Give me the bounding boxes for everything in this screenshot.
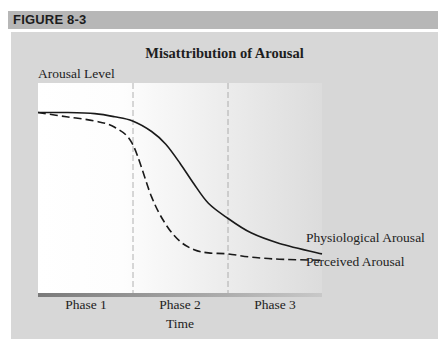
phase-1-label: Phase 1 [46, 297, 126, 313]
legend-perceived-arousal: Perceived Arousal [306, 254, 405, 270]
phase-2-label: Phase 2 [140, 297, 220, 313]
figure-label: FIGURE 8-3 [13, 12, 87, 27]
figure-header-band: FIGURE 8-3 [8, 11, 438, 29]
phase-3-label: Phase 3 [235, 297, 315, 313]
x-axis-label: Time [140, 316, 220, 332]
plot-area [11, 32, 438, 339]
figure-panel: Misattribution of Arousal Arousal Level … [11, 32, 438, 339]
plot-background [38, 83, 322, 294]
legend-physiological-arousal: Physiological Arousal [306, 230, 425, 246]
